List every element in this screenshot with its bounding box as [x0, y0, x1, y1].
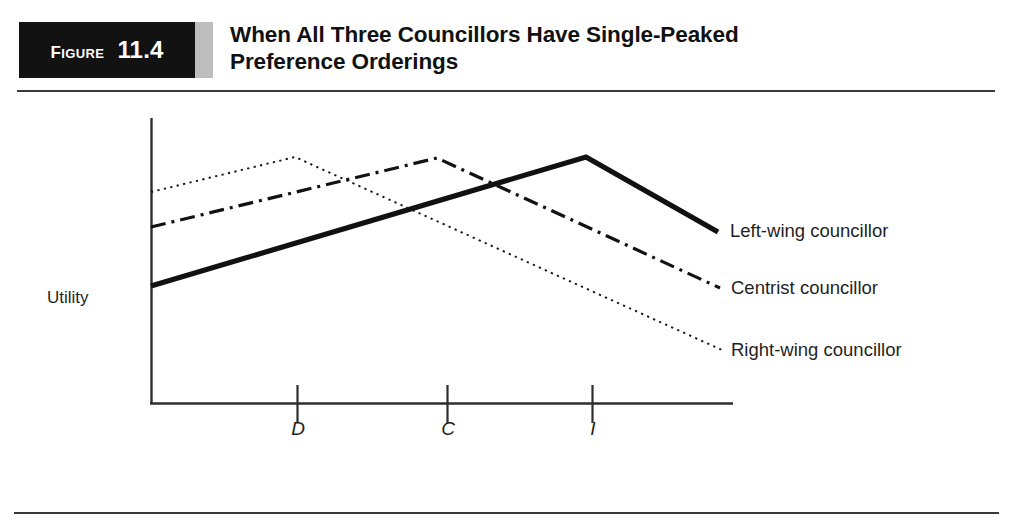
chart-svg [0, 96, 1013, 512]
figure-tag: Figure 11.4 [19, 22, 195, 78]
figure-tag-word: Figure [50, 36, 104, 64]
header-divider-rule [17, 90, 995, 92]
figure-tag-number: 11.4 [117, 36, 163, 64]
figure-page: { "figure": { "tag_word": "Figure", "tag… [0, 0, 1013, 531]
chart-area: Utility Level of Social Service Provisio… [0, 96, 1013, 512]
x-tick-label-i: I [578, 418, 608, 440]
series-line-left-wing [151, 157, 718, 286]
legend-label-right-wing: Right-wing councillor [731, 339, 902, 361]
x-tick-label-d: D [283, 418, 313, 440]
figure-header: Figure 11.4 When All Three Councillors H… [0, 0, 1013, 96]
figure-title-line-2: Preference Orderings [230, 48, 990, 75]
figure-title-line-1: When All Three Councillors Have Single-P… [230, 21, 990, 48]
figure-tag-accent-strip [195, 22, 213, 78]
footer-divider-rule [14, 512, 999, 514]
x-tick-label-c: C [433, 418, 463, 440]
series-line-centrist [151, 158, 720, 288]
legend-label-centrist: Centrist councillor [731, 277, 878, 299]
y-axis-label: Utility [47, 288, 89, 308]
legend-label-left-wing: Left-wing councillor [730, 220, 888, 242]
figure-title: When All Three Councillors Have Single-P… [230, 21, 990, 75]
